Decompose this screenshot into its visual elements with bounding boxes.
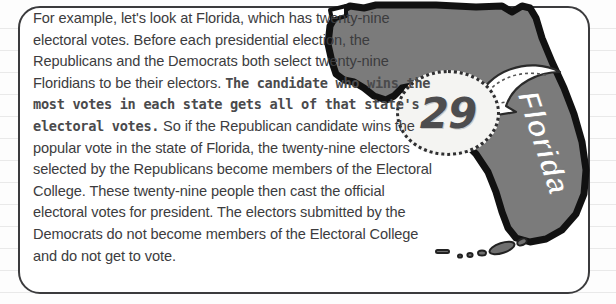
worksheet-page: Florida 29 For example, let's look at Fl…	[0, 0, 616, 304]
paragraph-tail-text: So if the Republican candidate wins the …	[33, 118, 432, 264]
lesson-paragraph: For example, let's look at Florida, whic…	[33, 8, 433, 267]
